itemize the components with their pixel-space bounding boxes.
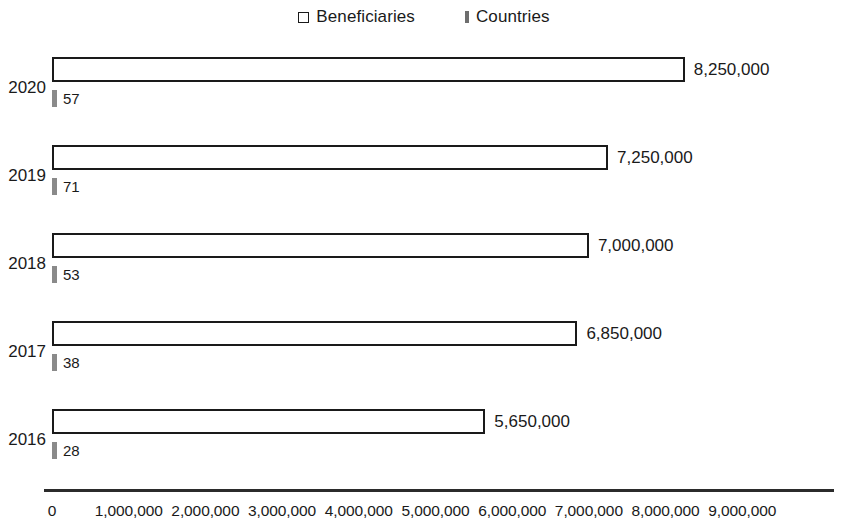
chart-group: 20187,000,00053: [0, 233, 848, 283]
x-axis-tick-label: 8,000,000: [632, 502, 700, 520]
bar-beneficiaries: [52, 233, 589, 258]
x-axis-tick-label: 3,000,000: [248, 502, 316, 520]
bar-beneficiaries: [52, 145, 608, 170]
bar-beneficiaries: [52, 57, 685, 82]
x-axis-tick-label: 2,000,000: [171, 502, 239, 520]
chart-group: 20165,650,00028: [0, 409, 848, 459]
chart-group: 20197,250,00071: [0, 145, 848, 195]
chart-group: 20176,850,00038: [0, 321, 848, 371]
bar-beneficiaries: [52, 409, 485, 434]
bar-value-label: 7,000,000: [598, 233, 674, 258]
bar-value-label: 5,650,000: [494, 409, 570, 434]
x-axis-line: [44, 489, 834, 492]
countries-value-label: 28: [63, 442, 80, 459]
bar-chart: Beneficiaries Countries 20208,250,000572…: [0, 0, 848, 532]
x-axis-tick-label: 0: [48, 502, 57, 520]
countries-value-label: 71: [63, 178, 80, 195]
x-axis-tick-label: 7,000,000: [555, 502, 623, 520]
y-axis-category-label: 2020: [2, 78, 46, 98]
x-axis-tick-labels: 01,000,0002,000,0003,000,0004,000,0005,0…: [0, 502, 848, 526]
plot-area: 20208,250,0005720197,250,0007120187,000,…: [0, 0, 848, 532]
bar-beneficiaries: [52, 321, 577, 346]
chart-group: 20208,250,00057: [0, 57, 848, 107]
countries-value-label: 57: [63, 90, 80, 107]
x-axis-tick-label: 1,000,000: [95, 502, 163, 520]
countries-value-label: 38: [63, 354, 80, 371]
bar-value-label: 6,850,000: [586, 321, 662, 346]
bar-countries: [52, 90, 57, 107]
bar-countries: [52, 178, 57, 195]
y-axis-category-label: 2019: [2, 166, 46, 186]
bar-countries: [52, 354, 57, 371]
x-axis-tick-label: 9,000,000: [708, 502, 776, 520]
x-axis-tick-label: 4,000,000: [325, 502, 393, 520]
x-axis-tick-label: 5,000,000: [401, 502, 469, 520]
y-axis-category-label: 2018: [2, 254, 46, 274]
y-axis-category-label: 2016: [2, 430, 46, 450]
bar-value-label: 7,250,000: [617, 145, 693, 170]
countries-value-label: 53: [63, 266, 80, 283]
x-axis-tick-label: 6,000,000: [478, 502, 546, 520]
bar-countries: [52, 266, 57, 283]
bar-value-label: 8,250,000: [694, 57, 770, 82]
bar-countries: [52, 442, 57, 459]
y-axis-category-label: 2017: [2, 342, 46, 362]
